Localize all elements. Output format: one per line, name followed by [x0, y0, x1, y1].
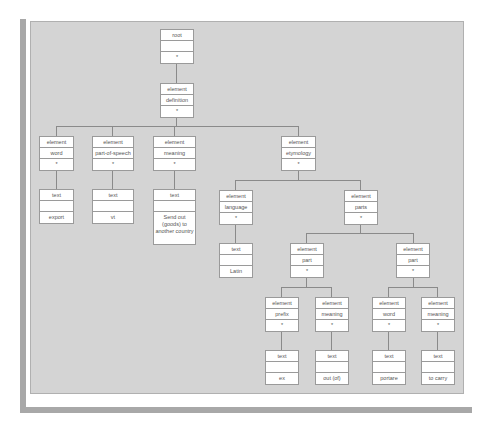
node-value: * — [266, 320, 298, 331]
node-etymology: element etymology * — [281, 136, 316, 171]
edge-to-parts — [360, 180, 361, 190]
node-value: out (of) — [316, 373, 348, 384]
node-text-send-out: text Send out (goods) to another country — [153, 189, 196, 245]
node-text-latin: text Latin — [219, 243, 253, 278]
node-name: part — [291, 255, 323, 266]
node-type: text — [373, 351, 405, 362]
edge-to-meaning2 — [437, 287, 438, 297]
node-name — [422, 362, 454, 373]
node-type: text — [422, 351, 454, 362]
node-name: prefix — [266, 309, 298, 320]
edge-to-word2 — [388, 287, 389, 297]
node-value: * — [373, 320, 405, 331]
node-value: portare — [373, 373, 405, 384]
node-value: Send out (goods) to another country — [154, 212, 195, 244]
edge-to-prefix — [281, 287, 282, 297]
edge-to-pos — [112, 126, 113, 136]
node-value: to carry — [422, 373, 454, 384]
node-type: text — [93, 190, 133, 201]
node-type: text — [266, 351, 298, 362]
node-meaning-2: element meaning * — [421, 297, 455, 332]
node-name — [220, 255, 252, 266]
node-part-2: element part * — [396, 243, 430, 278]
edge-meaning1-text — [331, 331, 332, 350]
node-type: text — [40, 190, 73, 201]
node-text-to-carry: text to carry — [421, 350, 455, 385]
edge-to-part2 — [413, 233, 414, 243]
node-type: element — [397, 244, 429, 255]
node-root: root * — [160, 29, 194, 64]
edge-etymology-hbar — [235, 180, 361, 181]
node-value: * — [397, 266, 429, 277]
node-type: element — [345, 191, 377, 202]
edge-to-part1 — [306, 233, 307, 243]
edge-definition-hbar — [56, 126, 299, 127]
edge-language-text — [235, 224, 236, 243]
node-value: * — [282, 159, 315, 170]
node-text-ex: text ex — [265, 350, 299, 385]
node-value: * — [154, 159, 195, 170]
node-value: * — [93, 159, 133, 170]
edge-parts-down — [360, 224, 361, 233]
node-text-portare: text portare — [372, 350, 406, 385]
node-name — [316, 362, 348, 373]
node-value: Latin — [220, 266, 252, 277]
node-name: definition — [161, 95, 193, 106]
node-meaning: element meaning * — [153, 136, 196, 171]
node-type: element — [93, 137, 133, 148]
node-name: word — [40, 148, 73, 159]
node-type: element — [282, 137, 315, 148]
frame-left-bar — [20, 19, 26, 413]
node-name: part-of-speech — [93, 148, 133, 159]
edge-parts-hbar — [306, 233, 414, 234]
node-type: element — [291, 244, 323, 255]
edge-root-definition — [176, 63, 177, 83]
node-value: * — [316, 320, 348, 331]
node-type: element — [161, 84, 193, 95]
node-type: text — [154, 190, 195, 201]
node-name — [40, 201, 73, 212]
edge-to-etymology — [298, 126, 299, 136]
node-type: root — [161, 30, 193, 41]
node-type: element — [154, 137, 195, 148]
node-name: part — [397, 255, 429, 266]
node-type: text — [316, 351, 348, 362]
edge-word2-text — [388, 331, 389, 350]
node-definition: element definition * — [160, 83, 194, 118]
node-name — [93, 201, 133, 212]
frame-bottom-bar — [20, 407, 472, 413]
node-type: element — [266, 298, 298, 309]
edge-part1-hbar — [281, 287, 332, 288]
node-type: element — [316, 298, 348, 309]
node-value: * — [422, 320, 454, 331]
node-name: meaning — [154, 148, 195, 159]
edge-part2-down — [413, 277, 414, 287]
node-name: meaning — [422, 309, 454, 320]
node-value: vt — [93, 212, 133, 223]
node-type: element — [220, 191, 252, 202]
node-name: parts — [345, 202, 377, 213]
edge-to-meaning — [174, 126, 175, 136]
node-value: * — [40, 159, 73, 170]
edge-part1-down — [306, 277, 307, 287]
node-text-out-of: text out (of) — [315, 350, 349, 385]
node-meaning-1: element meaning * — [315, 297, 349, 332]
edge-to-word — [56, 126, 57, 136]
node-language: element language * — [219, 190, 253, 225]
node-name: etymology — [282, 148, 315, 159]
node-text-export: text export — [39, 189, 74, 224]
node-value: * — [345, 213, 377, 224]
node-value: * — [291, 266, 323, 277]
edge-definition-down — [176, 117, 177, 126]
node-parts: element parts * — [344, 190, 378, 225]
node-value: export — [40, 212, 73, 223]
node-word-2: element word * — [372, 297, 406, 332]
edge-to-language — [235, 180, 236, 190]
node-value: * — [220, 213, 252, 224]
node-name — [266, 362, 298, 373]
node-part-of-speech: element part-of-speech * — [92, 136, 134, 171]
node-type: element — [373, 298, 405, 309]
node-name — [154, 201, 195, 212]
edge-to-meaning1 — [331, 287, 332, 297]
edge-word-text — [56, 170, 57, 189]
